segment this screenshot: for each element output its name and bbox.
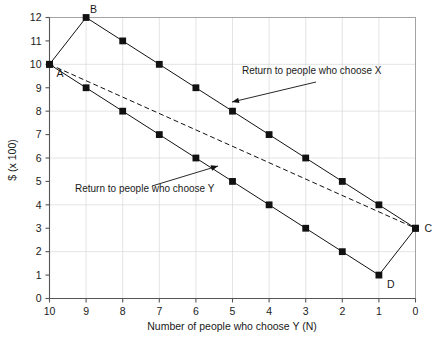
data-point-marker [302, 155, 309, 162]
annotation-label-0: Return to people who choose X [242, 65, 382, 76]
y-tick-label: 8 [36, 105, 42, 117]
x-tick-label: 9 [83, 305, 89, 317]
point-label-d: D [387, 278, 395, 290]
point-label-a: A [57, 67, 64, 79]
data-point-marker [302, 225, 309, 232]
y-tick-label: 0 [36, 292, 42, 304]
y-tick-label: 12 [30, 11, 42, 23]
x-tick-label: 6 [193, 305, 199, 317]
x-tick-label: 3 [303, 305, 309, 317]
y-tick-label: 4 [36, 199, 42, 211]
x-tick-label: 2 [339, 305, 345, 317]
data-point-marker [46, 61, 53, 68]
data-point-marker [193, 155, 200, 162]
data-point-marker [229, 108, 236, 115]
data-point-marker [376, 201, 383, 208]
data-point-marker [83, 14, 90, 21]
data-point-marker [266, 201, 273, 208]
y-tick-label: 10 [30, 58, 42, 70]
chart-container: 109876543210 0123456789101112 ABCD Retur… [0, 0, 440, 337]
x-tick-label: 1 [376, 305, 382, 317]
y-tick-label: 1 [36, 269, 42, 281]
data-point-marker [339, 248, 346, 255]
y-tick-label: 2 [36, 245, 42, 257]
x-tick-label: 8 [120, 305, 126, 317]
chart-background [0, 0, 440, 337]
y-tick-label: 9 [36, 82, 42, 94]
data-point-marker [156, 61, 163, 68]
y-tick-label: 5 [36, 175, 42, 187]
x-tick-label: 5 [230, 305, 236, 317]
data-point-marker [156, 131, 163, 138]
data-point-marker [119, 108, 126, 115]
point-label-b: B [90, 3, 97, 15]
x-tick-label: 7 [156, 305, 162, 317]
data-point-marker [83, 84, 90, 91]
data-point-marker [193, 84, 200, 91]
y-axis-title: $ (x 100) [6, 139, 18, 180]
x-tick-label: 10 [44, 305, 56, 317]
data-point-marker [119, 38, 126, 45]
data-point-marker [229, 178, 236, 185]
data-point-marker [266, 131, 273, 138]
x-axis-title: Number of people who choose Y (N) [147, 320, 316, 332]
data-point-marker [412, 225, 419, 232]
y-tick-label: 11 [31, 35, 42, 47]
x-tick-label: 0 [413, 305, 419, 317]
data-point-marker [339, 178, 346, 185]
annotation-label-1: Return to people who choose Y [75, 183, 215, 194]
data-point-marker [376, 272, 383, 279]
economics-line-chart: 109876543210 0123456789101112 ABCD Retur… [0, 0, 440, 337]
y-tick-label: 3 [36, 222, 42, 234]
y-tick-label: 6 [36, 152, 42, 164]
x-tick-label: 4 [266, 305, 272, 317]
point-label-c: C [425, 222, 433, 234]
y-tick-label: 7 [36, 128, 42, 140]
